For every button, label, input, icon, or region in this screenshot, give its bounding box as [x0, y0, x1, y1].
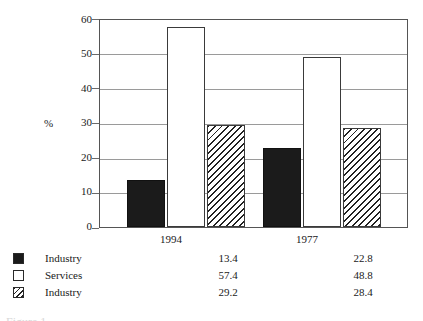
legend-value-1994: 13.4	[205, 250, 251, 266]
open-white-swatch-icon	[13, 270, 24, 281]
y-tick-label-10: 10	[70, 186, 92, 197]
legend-row: Industry 13.4 22.8	[13, 250, 413, 267]
legend-row: Industry 29.2 28.4	[13, 284, 413, 301]
x-tick-label-1977: 1977	[282, 233, 332, 245]
figure-caption-clipped: Figure 1	[6, 316, 336, 321]
y-tick-mark-0	[92, 228, 99, 229]
plot-area	[99, 19, 408, 228]
y-axis-title: %	[44, 117, 53, 129]
bar-1994-industry-hatch	[207, 125, 245, 227]
solid-black-swatch-icon	[13, 253, 24, 264]
y-tick-label-50: 50	[70, 48, 92, 59]
legend-value-table: Industry 13.4 22.8 Services 57.4 48.8 In…	[13, 250, 413, 301]
gridline-30	[100, 124, 407, 125]
y-tick-label-60: 60	[70, 14, 92, 25]
bar-1994-services	[167, 27, 205, 227]
diagonal-hatch-swatch-icon	[13, 287, 24, 298]
y-tick-label-30: 30	[70, 117, 92, 128]
y-tick-label-20: 20	[70, 152, 92, 163]
legend-value-1994: 57.4	[205, 267, 251, 283]
y-tick-mark-20	[92, 158, 99, 159]
legend-item-label: Industry	[45, 284, 82, 300]
legend-value-1994: 29.2	[205, 284, 251, 300]
y-tick-mark-50	[92, 54, 99, 55]
y-tick-mark-10	[92, 193, 99, 194]
bar-1977-services	[303, 57, 341, 227]
legend-value-1977: 28.4	[340, 284, 386, 300]
y-tick-mark-30	[92, 123, 99, 124]
legend-value-1977: 48.8	[340, 267, 386, 283]
bar-1977-industry-solid	[263, 148, 301, 227]
chart-figure: % 60 50 40 30 20 10 0 1994 1977	[0, 0, 423, 321]
legend-value-1977: 22.8	[340, 250, 386, 266]
bar-1977-industry-hatch	[343, 128, 381, 227]
y-tick-mark-60	[92, 19, 99, 20]
gridline-50	[100, 54, 407, 55]
legend-item-label: Services	[45, 267, 82, 283]
x-tick-label-1994: 1994	[146, 233, 196, 245]
y-tick-label-40: 40	[70, 83, 92, 94]
legend-row: Services 57.4 48.8	[13, 267, 413, 284]
y-tick-mark-40	[92, 88, 99, 89]
bar-1994-industry-solid	[127, 180, 165, 227]
legend-item-label: Industry	[45, 250, 82, 266]
y-tick-label-0: 0	[70, 221, 92, 232]
gridline-40	[100, 89, 407, 90]
